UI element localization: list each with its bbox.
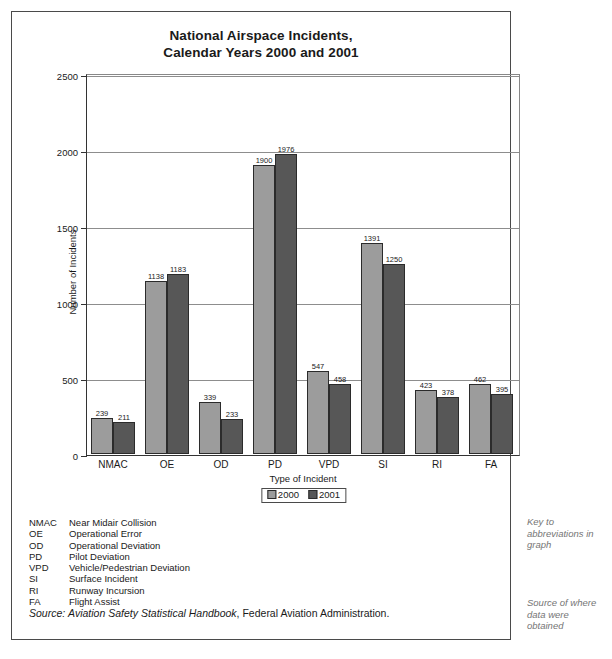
plot-area: 05001000150020002500 239211NMAC11381183O… bbox=[86, 74, 520, 456]
bar-group: 239211NMAC bbox=[88, 74, 142, 454]
source-label: Source: bbox=[29, 607, 65, 619]
bar-OD-2001[interactable]: 233 bbox=[221, 419, 243, 454]
bar-value-label: 1976 bbox=[278, 145, 295, 154]
x-axis-category-label: OD bbox=[196, 459, 246, 470]
bar-OE-2001[interactable]: 1183 bbox=[167, 274, 189, 454]
y-axis-tick-label: 1000 bbox=[57, 299, 78, 310]
bar-value-label: 378 bbox=[442, 388, 455, 397]
y-axis-tick bbox=[81, 228, 87, 229]
abbreviation-description: Operational Error bbox=[69, 528, 449, 539]
chart-title-line-1: National Airspace Incidents, bbox=[12, 27, 510, 44]
legend-label-2000: 2000 bbox=[278, 490, 299, 500]
legend-swatch-2001-icon bbox=[308, 490, 317, 499]
abbreviation-code: VPD bbox=[29, 562, 69, 573]
bar-group: 462395FA bbox=[466, 74, 520, 454]
bar-FA-2000[interactable]: 462 bbox=[469, 384, 491, 454]
bar-value-label: 211 bbox=[118, 413, 130, 422]
abbreviation-code: PD bbox=[29, 551, 69, 562]
bar-value-label: 547 bbox=[312, 362, 325, 371]
abbreviation-row: PDPilot Deviation bbox=[29, 551, 449, 562]
chart-legend: 2000 2001 bbox=[261, 488, 346, 503]
bar-RI-2000[interactable]: 423 bbox=[415, 390, 437, 454]
legend-item-2000: 2000 bbox=[267, 490, 299, 500]
abbreviation-description: Runway Incursion bbox=[69, 585, 449, 596]
bar-VPD-2000[interactable]: 547 bbox=[307, 371, 329, 454]
abbreviation-code: OD bbox=[29, 540, 69, 551]
bar-value-label: 339 bbox=[204, 393, 217, 402]
bar-SI-2000[interactable]: 1391 bbox=[361, 243, 383, 454]
abbreviation-code: FA bbox=[29, 596, 69, 607]
bar-NMAC-2001[interactable]: 211 bbox=[113, 422, 135, 454]
bar-NMAC-2000[interactable]: 239 bbox=[91, 418, 113, 454]
bar-value-label: 233 bbox=[226, 410, 239, 419]
x-axis-category-label: RI bbox=[412, 459, 462, 470]
abbreviation-row: OEOperational Error bbox=[29, 528, 449, 539]
source-note: Source: Aviation Safety Statistical Hand… bbox=[29, 607, 389, 619]
abbreviation-description: Pilot Deviation bbox=[69, 551, 449, 562]
bar-value-label: 1183 bbox=[170, 265, 186, 274]
abbreviation-description: Flight Assist bbox=[69, 596, 449, 607]
x-axis-category-label: OE bbox=[142, 459, 192, 470]
abbreviation-description: Vehicle/Pedestrian Deviation bbox=[69, 562, 449, 573]
y-axis-tick-label: 2500 bbox=[57, 71, 78, 82]
legend-label-2001: 2001 bbox=[319, 490, 340, 500]
y-axis-tick-label: 0 bbox=[73, 451, 78, 462]
x-axis-category-label: PD bbox=[250, 459, 300, 470]
abbreviation-row: SISurface Incident bbox=[29, 573, 449, 584]
bars-layer: 239211NMAC11381183OE339233OD19001976PD54… bbox=[88, 74, 520, 454]
bar-SI-2001[interactable]: 1250 bbox=[383, 264, 405, 454]
abbreviation-description: Operational Deviation bbox=[69, 540, 449, 551]
abbreviation-key: NMACNear Midair CollisionOEOperational E… bbox=[29, 517, 449, 607]
x-axis-title: Type of Incident bbox=[86, 473, 520, 484]
y-axis-tick bbox=[81, 152, 87, 153]
figure-frame: National Airspace Incidents, Calendar Ye… bbox=[11, 11, 511, 640]
bar-OD-2000[interactable]: 339 bbox=[199, 402, 221, 454]
bar-group: 547458VPD bbox=[304, 74, 358, 454]
legend-item-2001: 2001 bbox=[308, 490, 340, 500]
bar-value-label: 1250 bbox=[386, 255, 403, 264]
y-axis-tick bbox=[81, 380, 87, 381]
bar-FA-2001[interactable]: 395 bbox=[491, 394, 513, 454]
chart-plot: Number of Incidents 05001000150020002500… bbox=[86, 74, 521, 469]
abbreviation-code: RI bbox=[29, 585, 69, 596]
bar-value-label: 462 bbox=[474, 375, 487, 384]
bar-value-label: 1900 bbox=[256, 156, 273, 165]
bar-value-label: 423 bbox=[420, 381, 433, 390]
bar-VPD-2001[interactable]: 458 bbox=[329, 384, 351, 454]
abbreviation-code: OE bbox=[29, 528, 69, 539]
source-publication-title: Aviation Safety Statistical Handbook bbox=[68, 607, 237, 619]
bar-RI-2001[interactable]: 378 bbox=[437, 397, 459, 454]
chart-title: National Airspace Incidents, Calendar Ye… bbox=[12, 27, 510, 61]
y-axis-tick bbox=[81, 304, 87, 305]
abbreviation-description: Near Midair Collision bbox=[69, 517, 449, 528]
bar-PD-2000[interactable]: 1900 bbox=[253, 165, 275, 454]
chart-title-line-2: Calendar Years 2000 and 2001 bbox=[12, 44, 510, 61]
abbreviation-row: RIRunway Incursion bbox=[29, 585, 449, 596]
abbreviation-row: VPDVehicle/Pedestrian Deviation bbox=[29, 562, 449, 573]
bar-group: 423378RI bbox=[412, 74, 466, 454]
bar-value-label: 458 bbox=[334, 375, 347, 384]
bar-PD-2001[interactable]: 1976 bbox=[275, 154, 297, 454]
bar-group: 339233OD bbox=[196, 74, 250, 454]
bar-value-label: 395 bbox=[496, 385, 509, 394]
margin-note-source: Source of where data were obtained bbox=[527, 597, 607, 632]
x-axis-category-label: FA bbox=[466, 459, 516, 470]
bar-value-label: 1391 bbox=[364, 234, 381, 243]
x-axis-category-label: SI bbox=[358, 459, 408, 470]
bar-value-label: 239 bbox=[96, 409, 109, 418]
bar-group: 13911250SI bbox=[358, 74, 412, 454]
abbreviation-row: NMACNear Midair Collision bbox=[29, 517, 449, 528]
x-axis-category-label: VPD bbox=[304, 459, 354, 470]
bar-value-label: 1138 bbox=[148, 272, 164, 281]
y-axis-tick-label: 1500 bbox=[57, 223, 78, 234]
bar-group: 19001976PD bbox=[250, 74, 304, 454]
y-axis-tick bbox=[81, 456, 87, 457]
source-publisher: , Federal Aviation Administration. bbox=[237, 607, 390, 619]
y-axis-tick bbox=[81, 76, 87, 77]
bar-OE-2000[interactable]: 1138 bbox=[145, 281, 167, 454]
margin-note-key: Key to abbreviations in graph bbox=[527, 516, 607, 551]
legend-swatch-2000-icon bbox=[267, 490, 276, 499]
y-axis-tick-label: 2000 bbox=[57, 147, 78, 158]
abbreviation-code: SI bbox=[29, 573, 69, 584]
x-axis-category-label: NMAC bbox=[88, 459, 138, 470]
